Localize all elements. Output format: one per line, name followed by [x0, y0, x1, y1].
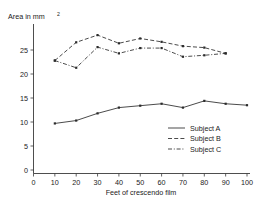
x-tick-label: 100	[241, 178, 253, 187]
data-point-marker	[139, 47, 141, 49]
data-point-marker	[203, 47, 205, 49]
data-point-marker	[75, 119, 77, 121]
data-point-marker	[161, 47, 163, 49]
line-chart: Area in mm 2 0510152025 0102030405060708…	[0, 0, 261, 204]
data-point-marker	[118, 52, 120, 54]
data-point-marker	[96, 112, 98, 114]
x-tick-label: 50	[136, 178, 144, 187]
data-point-marker	[182, 107, 184, 109]
x-axis-title: Feet of crescendo film	[106, 188, 177, 197]
data-point-marker	[203, 100, 205, 102]
data-point-marker	[161, 41, 163, 43]
data-point-marker	[203, 54, 205, 56]
data-point-marker	[75, 41, 77, 43]
y-tick-label: 10	[20, 118, 28, 127]
y-tick-label: 0	[24, 166, 28, 175]
data-point-marker	[75, 67, 77, 69]
x-tick-label: 0	[32, 178, 36, 187]
chart-container: Area in mm 2 0510152025 0102030405060708…	[0, 0, 261, 204]
x-tick-label: 70	[179, 178, 187, 187]
data-point-marker	[139, 105, 141, 107]
chart-legend: Subject ASubject BSubject C	[168, 124, 221, 154]
data-point-marker	[96, 34, 98, 36]
x-tick-label: 40	[115, 178, 123, 187]
y-tick-label: 25	[20, 46, 28, 55]
data-point-marker	[96, 46, 98, 48]
legend-label: Subject A	[190, 124, 221, 133]
data-point-marker	[118, 42, 120, 44]
y-axis-title-superscript: 2	[57, 11, 60, 17]
y-axis-title-text: Area in mm	[8, 12, 45, 21]
x-tick-label: 60	[158, 178, 166, 187]
x-axis-ticks: 0102030405060708090100	[32, 174, 254, 188]
x-tick-label: 30	[94, 178, 102, 187]
data-point-marker	[182, 56, 184, 58]
data-point-marker	[246, 104, 248, 106]
data-point-marker	[139, 37, 141, 39]
data-point-marker	[161, 103, 163, 105]
data-point-marker	[118, 107, 120, 109]
series-subject-a	[54, 100, 248, 125]
series-subject-c	[54, 46, 227, 69]
y-tick-label: 15	[20, 94, 28, 103]
data-point-marker	[54, 122, 56, 124]
legend-label: Subject C	[190, 145, 221, 154]
y-tick-label: 20	[20, 70, 28, 79]
data-point-marker	[182, 45, 184, 47]
x-tick-label: 80	[200, 178, 208, 187]
y-axis-title: Area in mm 2	[8, 11, 60, 22]
data-series-group	[54, 34, 248, 125]
y-tick-label: 5	[24, 142, 28, 151]
data-point-marker	[225, 52, 227, 54]
x-tick-label: 20	[72, 178, 80, 187]
data-point-marker	[225, 103, 227, 105]
data-point-marker	[54, 59, 56, 61]
legend-label: Subject B	[190, 134, 221, 143]
x-tick-label: 10	[51, 178, 59, 187]
x-tick-label: 90	[222, 178, 230, 187]
y-axis-ticks: 0510152025	[20, 46, 34, 175]
series-line	[55, 101, 247, 124]
series-line	[55, 47, 226, 68]
